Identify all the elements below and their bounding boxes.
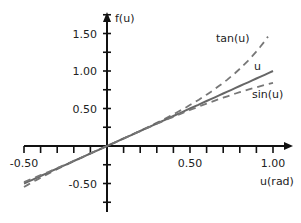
axes [24,12,293,212]
x-tick-label: 0.50 [178,157,203,170]
x-tick-label: 1.00 [261,157,286,170]
x-tick-label: -0.50 [10,157,38,170]
labels: -0.500.501.001.501.000.50-0.50f(u)u(rad)… [10,12,294,191]
y-axis-title: f(u) [115,12,134,25]
x-axis-title: u(rad) [260,175,294,188]
series-label: tan(u) [216,32,250,45]
series-label: u [254,60,261,73]
y-tick-label: -0.50 [69,178,97,191]
chart: -0.500.501.001.501.000.50-0.50f(u)u(rad)… [0,0,301,223]
y-tick-label: 1.00 [73,65,98,78]
curve-tanu [24,37,268,187]
curves [24,37,273,187]
y-axis-arrow-icon [103,12,111,22]
curve-sinu [24,83,273,182]
y-tick-label: 0.50 [73,103,98,116]
series-label: sin(u) [252,88,283,101]
x-axis-arrow-icon [284,142,293,150]
y-tick-label: 1.50 [73,28,98,41]
